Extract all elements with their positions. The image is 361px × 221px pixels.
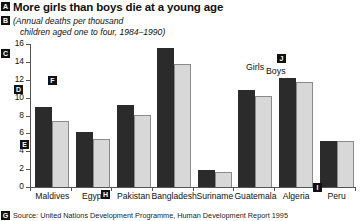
source-note: Source: United Nations Development Progr… [13, 211, 288, 220]
callout-badge-h: H [101, 190, 110, 199]
bar-girls [238, 90, 255, 187]
y-tick-mark [26, 169, 30, 170]
chart-subtitle: (Annual deaths per thousand children age… [13, 16, 213, 37]
y-tick-label: 16 [15, 38, 24, 48]
y-axis-line [30, 44, 31, 188]
bar-girls [320, 141, 337, 187]
chart-title: More girls than boys die at a young age [13, 1, 223, 13]
x-axis-label: Peru [328, 191, 346, 201]
x-tick-mark [274, 187, 275, 191]
y-tick-mark [26, 151, 30, 152]
y-tick-mark [26, 62, 30, 63]
bar-boys [337, 141, 354, 187]
x-tick-mark [193, 187, 194, 191]
bar-boys [52, 121, 69, 187]
callout-badge-a: A [1, 2, 10, 11]
y-tick-mark [26, 133, 30, 134]
bar-boys [255, 96, 272, 187]
x-axis-label: Pakistan [117, 191, 150, 201]
callout-badge-f: F [48, 76, 57, 85]
bar-girls [117, 105, 134, 187]
legend-label-girls: Girls [246, 62, 264, 72]
x-tick-mark [30, 187, 31, 191]
y-tick-label: 14 [15, 56, 24, 66]
x-axis-label: Maldives [35, 191, 69, 201]
bar-girls [35, 107, 52, 187]
x-axis-label: Bangladesh [151, 191, 196, 201]
callout-badge-b: B [1, 16, 10, 25]
callout-badge-e: E [20, 140, 29, 149]
bar-girls [279, 78, 296, 187]
callout-badge-i: I [313, 183, 322, 192]
bar-girls [76, 132, 93, 187]
y-tick-label: 2 [19, 163, 24, 173]
x-axis-label: Suriname [196, 191, 233, 201]
y-tick-label: 8 [19, 110, 24, 120]
x-axis-label: Guatemala [234, 191, 276, 201]
callout-badge-d: D [14, 85, 23, 94]
plot-area: 0246810121416 MaldivesEgyptPakistanBangl… [30, 44, 355, 188]
x-tick-mark [71, 187, 72, 191]
bar-boys [296, 82, 313, 187]
y-tick-mark [26, 44, 30, 45]
y-tick-mark [26, 116, 30, 117]
callout-badge-g: G [1, 211, 10, 220]
y-tick-label: 12 [15, 74, 24, 84]
chart-figure: A B C D E F G H I J More girls than boys… [0, 0, 361, 221]
callout-badge-c: C [1, 49, 10, 58]
chart-subtitle-line2: children aged one to four, 1984–1990) [13, 27, 213, 38]
y-tick-label: 0 [19, 181, 24, 191]
bar-girls [157, 48, 174, 187]
x-tick-mark [355, 187, 356, 191]
bar-boys [174, 64, 191, 187]
x-tick-mark [111, 187, 112, 191]
x-axis-label: Algeria [283, 191, 310, 201]
bar-girls [198, 170, 215, 187]
bar-boys [134, 115, 151, 187]
y-tick-mark [26, 80, 30, 81]
callout-badge-j: J [277, 54, 286, 63]
chart-subtitle-line1: (Annual deaths per thousand [13, 16, 123, 26]
y-tick-mark [26, 98, 30, 99]
bar-boys [215, 172, 232, 187]
bar-boys [93, 139, 110, 187]
legend-label-boys: Boys [266, 66, 286, 76]
y-tick-label: 6 [19, 127, 24, 137]
